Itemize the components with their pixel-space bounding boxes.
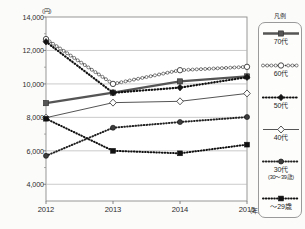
legend-label-40代: 40代 xyxy=(259,134,303,142)
legend-item-〜29歳[interactable]: 〜29歳 xyxy=(259,194,303,211)
legend-swatch-〜29歳 xyxy=(261,194,301,203)
legend-item-30代[interactable]: 30代(30〜39歳) xyxy=(259,157,303,181)
legend-label-50代: 50代 xyxy=(259,102,303,110)
plot-area: (円) 4,0006,0008,00010,00012,00014,000 20… xyxy=(0,0,258,229)
legend-swatch-50代 xyxy=(261,93,301,102)
legend-box: 70代60代50代40代30代(30〜39歳)〜29歳 xyxy=(258,22,302,218)
legend-label-〜29歳: 〜29歳 xyxy=(259,203,303,211)
legend-swatch-60代 xyxy=(261,61,301,70)
legend-item-60代[interactable]: 60代 xyxy=(259,61,303,78)
chart-page: (円) 4,0006,0008,00010,00012,00014,000 20… xyxy=(0,0,305,229)
legend-item-40代[interactable]: 40代 xyxy=(259,125,303,142)
legend-label-30代: 30代 xyxy=(259,166,303,174)
legend-swatch-70代 xyxy=(261,29,301,38)
legend-swatch-30代 xyxy=(261,157,301,166)
line-chart-canvas xyxy=(0,0,258,229)
legend-item-70代[interactable]: 70代 xyxy=(259,29,303,46)
legend-sublabel-30代: (30〜39歳) xyxy=(259,174,303,181)
legend-title: 凡例 xyxy=(258,11,302,20)
legend-swatch-40代 xyxy=(261,125,301,134)
legend-item-50代[interactable]: 50代 xyxy=(259,93,303,110)
legend-label-60代: 60代 xyxy=(259,70,303,78)
legend-label-70代: 70代 xyxy=(259,38,303,46)
